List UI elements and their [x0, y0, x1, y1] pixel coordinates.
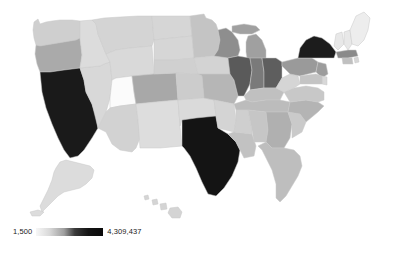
color-scale-legend: 1,500 4,309,437 — [13, 224, 142, 240]
state-ny[interactable] — [298, 36, 336, 58]
legend-min-label: 1,500 — [13, 228, 32, 236]
state-sd[interactable] — [154, 36, 194, 60]
state-hi-3[interactable] — [160, 203, 167, 210]
state-ak[interactable] — [40, 160, 94, 212]
state-pa[interactable] — [282, 58, 318, 76]
us-map-svg — [0, 0, 407, 253]
state-ne[interactable] — [154, 58, 198, 74]
state-ct[interactable] — [342, 58, 353, 64]
state-co[interactable] — [132, 73, 178, 104]
states-layer — [30, 12, 370, 218]
state-fl[interactable] — [258, 142, 302, 202]
state-ga[interactable] — [266, 112, 292, 148]
state-me[interactable] — [350, 12, 370, 46]
state-hi-2[interactable] — [152, 199, 158, 205]
state-de[interactable] — [322, 76, 327, 85]
state-ri[interactable] — [354, 57, 359, 63]
state-ma[interactable] — [336, 50, 358, 58]
state-ut[interactable] — [110, 76, 136, 108]
state-mi-up[interactable] — [232, 24, 260, 34]
state-vt[interactable] — [334, 32, 344, 50]
state-ia[interactable] — [194, 56, 230, 74]
state-nm[interactable] — [136, 100, 182, 148]
choropleth-map-figure: 1,500 4,309,437 — [0, 0, 407, 253]
state-hi-4[interactable] — [168, 207, 182, 218]
state-mn[interactable] — [190, 14, 220, 58]
state-md[interactable] — [300, 74, 322, 84]
legend-gradient-bar — [36, 228, 103, 236]
legend-max-label: 4,309,437 — [107, 228, 141, 236]
state-hi-1[interactable] — [144, 195, 149, 200]
state-ks[interactable] — [176, 73, 204, 100]
state-in[interactable] — [250, 58, 264, 90]
